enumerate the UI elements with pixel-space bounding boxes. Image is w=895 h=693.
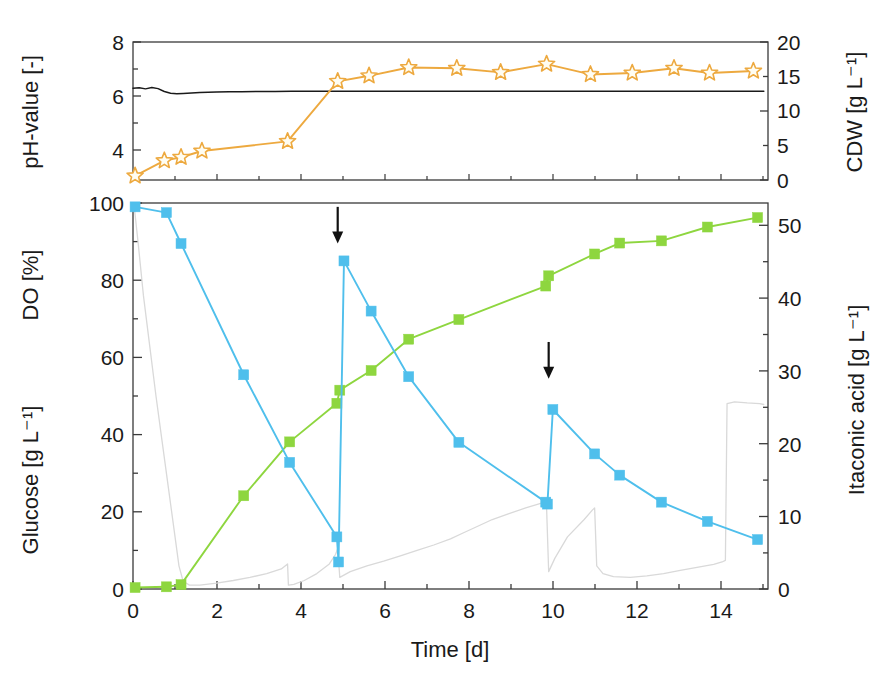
top-ytick-8: 8 (112, 31, 124, 54)
top-y2tick-15: 15 (777, 65, 800, 88)
main-panel-x-ticks (133, 581, 763, 589)
top-ytick-4: 4 (112, 139, 124, 162)
main-panel-plot (130, 202, 764, 593)
main-xtick-6: 6 (379, 599, 391, 622)
main-left-axis-title-glucose: Glucose [g L⁻¹] (18, 406, 43, 555)
main-y2tick-20: 20 (778, 433, 801, 456)
top-panel-plot (127, 56, 764, 183)
top-panel-x-ticks (133, 174, 763, 180)
main-ytick-20: 20 (101, 500, 124, 523)
main-ytick-100: 100 (89, 192, 124, 215)
top-y2tick-5: 5 (777, 134, 789, 157)
main-xtick-10: 10 (541, 599, 564, 622)
main-xtick-4: 4 (295, 599, 307, 622)
main-ytick-40: 40 (101, 423, 124, 446)
main-y2tick-30: 30 (778, 360, 801, 383)
top-y2tick-20: 20 (777, 31, 800, 54)
main-panel: 100 80 60 40 20 0 50 40 30 20 10 0 (18, 192, 869, 662)
main-y2tick-50: 50 (778, 214, 801, 237)
main-panel-annotations (332, 207, 554, 379)
top-panel: 8 6 4 20 15 10 5 0 (18, 31, 867, 192)
main-right-axis-title: Itaconic acid [g L⁻¹] (844, 305, 869, 496)
main-xtick-12: 12 (625, 599, 648, 622)
main-panel-left-ticks (133, 203, 142, 589)
main-ytick-0: 0 (112, 578, 124, 601)
top-ytick-6: 6 (112, 85, 124, 108)
main-left-axis-title-do: DO [%] (18, 250, 43, 321)
top-right-axis-title: CDW [g L⁻¹] (842, 52, 867, 173)
main-panel-frame (133, 203, 768, 589)
figure-root: 8 6 4 20 15 10 5 0 (0, 0, 895, 693)
figure-caption (58, 662, 848, 688)
main-ytick-80: 80 (101, 269, 124, 292)
main-y2tick-0: 0 (778, 578, 790, 601)
top-left-axis-title: pH-value [-] (18, 55, 43, 169)
top-y2tick-10: 10 (777, 99, 800, 122)
main-y2tick-40: 40 (778, 287, 801, 310)
top-panel-right-ticks (760, 42, 768, 180)
main-xtick-8: 8 (463, 599, 475, 622)
top-panel-left-ticks (133, 42, 141, 177)
top-y2tick-0: 0 (777, 169, 789, 192)
main-x-axis-title: Time [d] (411, 637, 490, 662)
main-xtick-14: 14 (709, 599, 733, 622)
main-xtick-2: 2 (211, 599, 223, 622)
chart-svg: 8 6 4 20 15 10 5 0 (0, 0, 895, 693)
main-xtick-0: 0 (127, 599, 139, 622)
main-ytick-60: 60 (101, 346, 124, 369)
main-y2tick-10: 10 (778, 505, 801, 528)
